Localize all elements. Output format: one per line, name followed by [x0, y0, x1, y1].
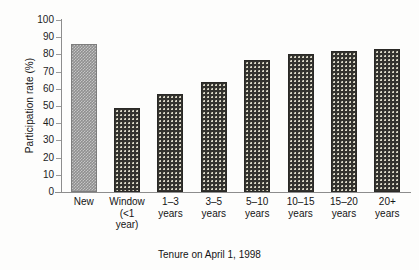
- x-axis-tick-label-line: years: [322, 208, 365, 220]
- x-axis-tick-label-line: 15–20: [322, 196, 365, 208]
- y-axis-tick-label: 70: [8, 67, 54, 77]
- x-axis-tick-label: New: [62, 196, 105, 208]
- y-axis-tick-labels: 1009080706050403020100: [0, 0, 54, 270]
- x-axis-tick-label: 20+years: [366, 196, 409, 219]
- x-axis-tick-label-line: 10–15: [279, 196, 322, 208]
- x-axis-tick-label-line: 20+: [366, 196, 409, 208]
- bar-slot: [62, 20, 105, 192]
- x-axis-tick-label-line: 5–10: [236, 196, 279, 208]
- bar-slot: [236, 20, 279, 192]
- x-axis-tick-label-line: Window: [105, 196, 148, 208]
- bar-slot: [149, 20, 192, 192]
- x-axis-tick-label-line: New: [62, 196, 105, 208]
- bar-slot: [322, 20, 365, 192]
- bar[interactable]: [374, 49, 400, 192]
- bar[interactable]: [71, 44, 97, 192]
- y-axis-tick-label: 20: [8, 153, 54, 163]
- x-axis-tick-label-line: years: [279, 208, 322, 220]
- x-axis-tick-label: 5–10years: [236, 196, 279, 219]
- x-axis-tick-label: 10–15years: [279, 196, 322, 219]
- x-axis-tick-label-line: years: [192, 208, 235, 220]
- x-axis-tick-label-line: years: [149, 208, 192, 220]
- bar-slot: [279, 20, 322, 192]
- bar-chart-figure: Participation rate (%) 10090807060504030…: [0, 0, 419, 270]
- y-axis-tick-label: 90: [8, 32, 54, 42]
- x-axis-title: Tenure on April 1, 1998: [0, 249, 419, 260]
- x-axis-tick-label-line: 1–3: [149, 196, 192, 208]
- x-axis-tick-label-line: year): [105, 219, 148, 231]
- x-axis-tick-label-line: years: [366, 208, 409, 220]
- y-axis-tick-label: 0: [8, 187, 54, 197]
- x-axis-tick-label-line: years: [236, 208, 279, 220]
- plot-area: [62, 20, 409, 192]
- y-axis-tick-label: 60: [8, 84, 54, 94]
- y-axis-tick-label: 40: [8, 118, 54, 128]
- x-axis-tick-label: Window(<1year): [105, 196, 148, 231]
- bar[interactable]: [157, 94, 183, 192]
- y-axis-tick-label: 30: [8, 135, 54, 145]
- x-axis-tick-label: 1–3years: [149, 196, 192, 219]
- bar[interactable]: [201, 82, 227, 192]
- x-axis-tick-label: 3–5years: [192, 196, 235, 219]
- y-axis-tick-label: 80: [8, 49, 54, 59]
- x-axis-tick-labels: NewWindow(<1year)1–3years3–5years5–10yea…: [62, 196, 409, 254]
- x-axis-tick-label-line: (<1: [105, 208, 148, 220]
- y-axis-tick-label: 10: [8, 170, 54, 180]
- y-axis-tick-label: 100: [8, 15, 54, 25]
- bar-slot: [366, 20, 409, 192]
- bar-slot: [105, 20, 148, 192]
- x-axis-line: [55, 192, 411, 193]
- bar[interactable]: [331, 51, 357, 192]
- bar[interactable]: [244, 60, 270, 192]
- x-axis-tick-label-line: 3–5: [192, 196, 235, 208]
- y-axis-tick-label: 50: [8, 101, 54, 111]
- bar-slot: [192, 20, 235, 192]
- bar[interactable]: [288, 54, 314, 192]
- x-axis-tick-label: 15–20years: [322, 196, 365, 219]
- bar[interactable]: [114, 108, 140, 192]
